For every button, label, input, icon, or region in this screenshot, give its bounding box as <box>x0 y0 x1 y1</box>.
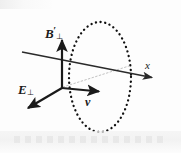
electric-field-label: E⊥ <box>18 83 34 97</box>
figure-container: B′⊥ E⊥ v x <box>0 0 181 153</box>
electric-field-subscript: ⊥ <box>27 88 34 97</box>
wavefront-ellipse <box>69 22 131 132</box>
radius-guide-line <box>63 66 129 87</box>
velocity-symbol: v <box>85 95 90 109</box>
velocity-vector <box>62 88 99 92</box>
x-axis-line <box>22 52 152 78</box>
velocity-label: v <box>85 96 90 108</box>
electric-field-symbol: E <box>18 82 27 97</box>
x-axis-label: x <box>145 60 150 71</box>
x-axis-symbol: x <box>145 59 150 71</box>
magnetic-field-label: B′⊥ <box>45 26 63 41</box>
vector-diagram-svg <box>0 0 181 153</box>
magnetic-field-subscript: ⊥ <box>56 32 63 41</box>
